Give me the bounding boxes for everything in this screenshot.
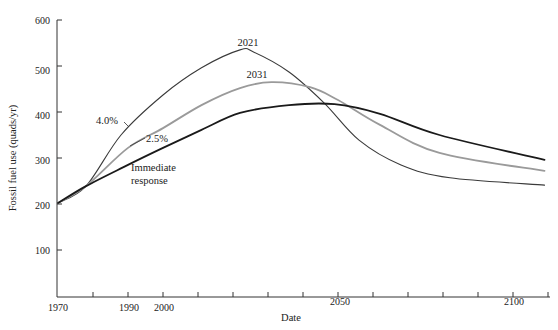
x-tick-label-2050: 2050 xyxy=(330,296,350,307)
y-tick-label-600: 600 xyxy=(35,15,50,26)
x-tick-label-1990: 1990 xyxy=(119,302,139,313)
y-tick-label-200: 200 xyxy=(35,200,50,211)
x-tick-labels: 1970 1990 2000 2050 2100 xyxy=(48,296,524,313)
leader-2pct xyxy=(130,138,145,146)
x-axis-title: Date xyxy=(281,312,301,323)
y-axis-title: Fossil fuel use (quads/yr) xyxy=(7,104,19,211)
peak-label-2031: 2031 xyxy=(247,69,268,80)
y-tick-label-300: 300 xyxy=(35,155,50,166)
x-tick-label-1970: 1970 xyxy=(48,302,68,313)
y-tick-label-400: 400 xyxy=(35,110,50,121)
x-ticks xyxy=(93,292,548,297)
leader-4pct xyxy=(124,122,129,127)
fossil-fuel-chart: 600 500 400 300 200 100 1970 1990 2000 2… xyxy=(0,0,558,330)
y-ticks xyxy=(57,20,62,250)
immediate-response-label-2: response xyxy=(131,175,168,186)
growth-label-2-5pct: 2.5% xyxy=(146,133,168,144)
curve-immediate-response xyxy=(58,103,545,203)
immediate-response-label-1: Immediate xyxy=(131,162,176,173)
y-tick-label-100: 100 xyxy=(35,245,50,256)
x-tick-label-2000: 2000 xyxy=(154,302,174,313)
growth-label-4pct: 4.0% xyxy=(96,115,118,126)
x-tick-label-2100: 2100 xyxy=(504,296,524,307)
y-tick-labels: 600 500 400 300 200 100 xyxy=(35,15,50,256)
peak-label-2021: 2021 xyxy=(238,37,259,48)
axes xyxy=(57,20,550,297)
y-tick-label-500: 500 xyxy=(35,65,50,76)
